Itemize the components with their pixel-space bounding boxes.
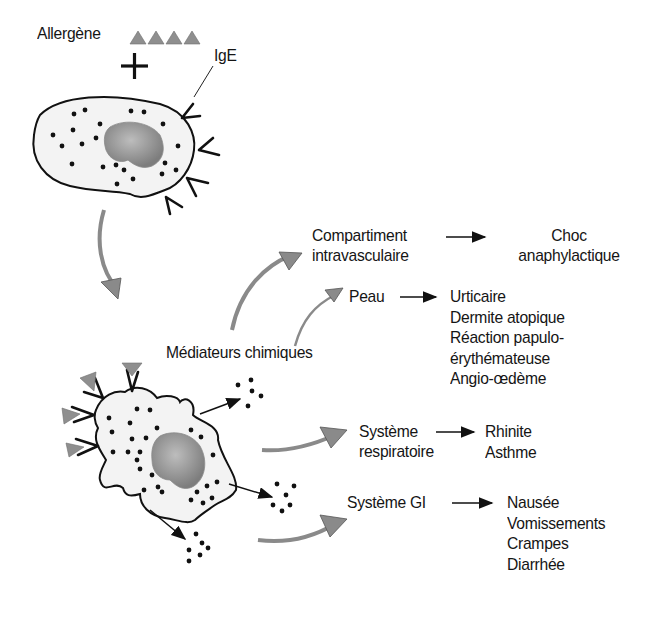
target-respiratory-label: Système respiratoire [359, 422, 434, 462]
activation-arrow-icon [100, 210, 121, 299]
target-gi-label: Système GI [347, 493, 426, 513]
ige-label: IgE [214, 46, 237, 66]
allergen-label: Allergène [37, 24, 101, 44]
mast-cell-degranulating [62, 363, 236, 522]
target-intravascular-label: Compartiment intravasculaire [312, 226, 409, 266]
allergen-triangles-icon [130, 31, 200, 44]
ige-pointer-line [194, 66, 213, 97]
effects-respiratory-list: Rhinite Asthme [485, 422, 536, 463]
mediators-label: Médiateurs chimiques [166, 343, 313, 363]
target-skin-label: Peau [349, 287, 384, 307]
plus-icon [121, 53, 148, 79]
target-arrows-icon [232, 255, 335, 541]
effects-gi-list: Nausée Vomissements Crampes Diarrhée [507, 493, 605, 575]
effects-skin-list: Urticaire Dermite atopique Réaction papu… [450, 287, 565, 390]
mast-cell-resting [33, 97, 219, 214]
effect-anaphylactic-shock: Choc anaphylactique [500, 226, 638, 266]
